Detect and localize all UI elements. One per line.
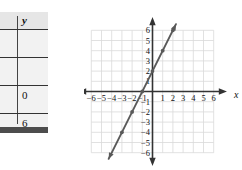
svg-text:−4: −4 bbox=[107, 93, 117, 103]
axes bbox=[84, 17, 227, 166]
table-header-y: y bbox=[22, 14, 46, 26]
table-row-divider bbox=[0, 57, 48, 58]
coordinate-graph: −6−5−4−3−2−1123456−6−5−4−3−2−1123456 x bbox=[84, 2, 242, 168]
svg-text:−2: −2 bbox=[128, 93, 137, 103]
table-row-divider bbox=[0, 29, 48, 30]
svg-text:6: 6 bbox=[212, 93, 216, 103]
svg-text:3: 3 bbox=[146, 56, 150, 66]
svg-text:−4: −4 bbox=[141, 127, 151, 137]
table-row-divider bbox=[0, 85, 48, 86]
svg-text:−2: −2 bbox=[141, 107, 150, 117]
svg-text:6: 6 bbox=[146, 25, 150, 35]
table-row-divider bbox=[0, 113, 48, 114]
svg-text:−6: −6 bbox=[141, 148, 150, 158]
svg-text:1: 1 bbox=[161, 93, 165, 103]
table-column-divider bbox=[17, 16, 18, 124]
svg-text:5: 5 bbox=[146, 36, 150, 46]
table-footer-bar bbox=[0, 127, 48, 133]
data-table: y 0 6 bbox=[0, 12, 48, 127]
svg-text:4: 4 bbox=[191, 93, 196, 103]
svg-text:3: 3 bbox=[181, 93, 185, 103]
table-cell-y-2: 0 bbox=[22, 89, 46, 101]
x-axis-label: x bbox=[233, 89, 239, 100]
svg-text:2: 2 bbox=[146, 66, 150, 76]
svg-text:−1: −1 bbox=[141, 97, 150, 107]
graph-canvas: −6−5−4−3−2−1123456−6−5−4−3−2−1123456 x bbox=[84, 2, 242, 168]
svg-text:2: 2 bbox=[171, 93, 175, 103]
svg-text:−5: −5 bbox=[97, 93, 106, 103]
svg-text:−5: −5 bbox=[141, 138, 150, 148]
svg-text:5: 5 bbox=[201, 93, 205, 103]
svg-text:−3: −3 bbox=[117, 93, 126, 103]
svg-text:−6: −6 bbox=[87, 93, 96, 103]
svg-text:−3: −3 bbox=[141, 117, 150, 127]
